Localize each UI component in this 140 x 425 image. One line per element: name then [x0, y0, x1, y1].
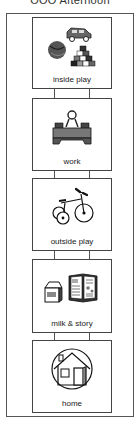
schedule-card-home: home: [32, 340, 112, 413]
step-label: milk & story: [33, 319, 111, 328]
desk-worker-icon: [41, 105, 103, 155]
connector-4-5-right: [89, 332, 90, 340]
schedule-card-inside-play: inside play: [32, 17, 112, 89]
schedule-title: ŌŌŌ Afternoon: [0, 0, 140, 6]
connector-3-4-left: [54, 250, 55, 259]
connector-4-5-left: [54, 332, 55, 340]
toys-blocks-ball-icon: [41, 22, 103, 72]
step-label: work: [33, 157, 111, 166]
connector-2-3-right: [89, 170, 90, 178]
connector-1-2-left: [54, 88, 55, 98]
milk-carton-and-book-icon: [41, 266, 103, 316]
schedule-card-outside-play: outside play: [32, 178, 112, 251]
step-label: outside play: [33, 237, 111, 246]
step-label: home: [33, 399, 111, 408]
connector-1-2-right: [89, 88, 90, 98]
tricycle-icon: [41, 185, 103, 235]
step-label: inside play: [33, 75, 111, 84]
schedule-card-work: work: [32, 98, 112, 171]
house-icon: [41, 345, 103, 395]
schedule-card-milk-story: milk & story: [32, 259, 112, 333]
connector-2-3-left: [54, 170, 55, 178]
connector-3-4-right: [89, 250, 90, 259]
